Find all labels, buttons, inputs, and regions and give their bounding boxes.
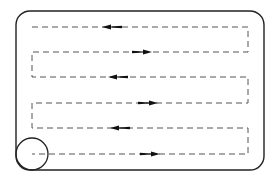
- arrowhead-icon: [108, 75, 117, 80]
- arrowhead-icon: [151, 152, 160, 157]
- arrowhead-icon: [143, 50, 152, 55]
- arrowhead-icon: [110, 126, 119, 131]
- arrowhead-icon: [149, 101, 158, 106]
- direction-arrows: [102, 25, 160, 157]
- scan-path-diagram: [0, 0, 280, 185]
- dashed-scan-path: [32, 27, 248, 154]
- boundary-outline: [16, 11, 264, 170]
- arrowhead-icon: [102, 25, 111, 30]
